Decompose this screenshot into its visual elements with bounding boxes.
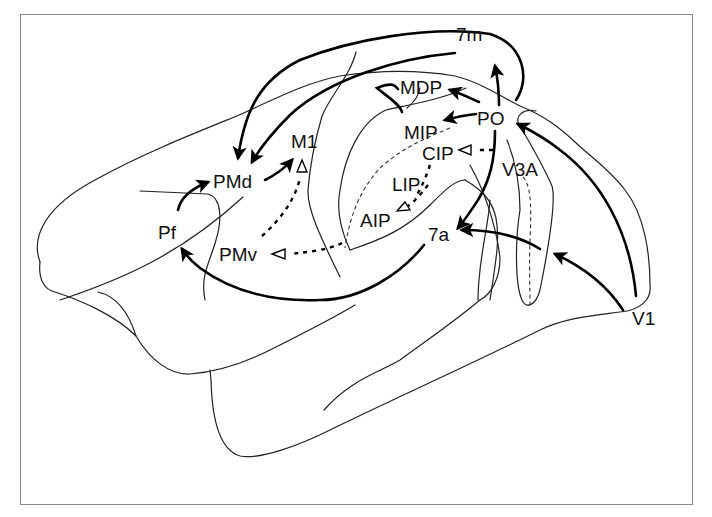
- arrow-po-7m: [495, 66, 499, 105]
- arrow-pmd-m1: [265, 160, 292, 180]
- label-lip: LIP: [392, 174, 421, 195]
- arrow-v3a-7a: [462, 230, 540, 249]
- label-mdp: MDP: [400, 77, 442, 98]
- brain-diagram: 7m MDP PO MIP CIP V3A LIP AIP 7a M1 PMd …: [0, 0, 712, 517]
- label-7m: 7m: [456, 24, 482, 45]
- label-po: PO: [477, 108, 504, 129]
- open-arrowhead-m1-icon: [297, 160, 307, 172]
- arrow-pf-pmd: [178, 182, 208, 210]
- open-arrowhead-pmv-icon: [272, 249, 285, 259]
- arrow-po-mdp: [450, 90, 479, 102]
- dashed-connections: [262, 145, 493, 259]
- open-arrowhead-cip-icon: [459, 145, 471, 155]
- label-pf: Pf: [158, 222, 177, 243]
- label-pmd: PMd: [213, 171, 252, 192]
- label-mip: MIP: [404, 122, 438, 143]
- open-arrowhead-aip-icon: [397, 202, 410, 211]
- arrow-v1-v3a: [555, 254, 623, 310]
- label-cip: CIP: [422, 143, 454, 164]
- label-7a: 7a: [428, 224, 450, 245]
- label-v1: V1: [632, 308, 655, 329]
- arrow-po-mip: [445, 114, 476, 120]
- label-aip: AIP: [360, 210, 391, 231]
- arrow-po-pmd: [238, 31, 523, 158]
- dashed-aip-pmv: [290, 243, 342, 254]
- arrow-v1-po: [518, 124, 636, 296]
- area-labels: 7m MDP PO MIP CIP V3A LIP AIP 7a M1 PMd …: [158, 24, 655, 329]
- label-m1: M1: [291, 131, 317, 152]
- label-pmv: PMv: [219, 244, 258, 265]
- dashed-pmv-m1: [262, 178, 300, 236]
- label-v3a: V3A: [502, 159, 538, 180]
